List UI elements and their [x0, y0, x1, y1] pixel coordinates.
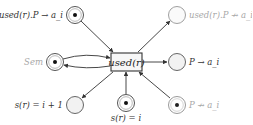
place-s-next: s(r) = i + 1 [15, 97, 84, 114]
place-label: Sem [24, 57, 43, 67]
arc-transition-to-used-notto [138, 21, 170, 52]
place-label: used(r).P → a_i [0, 10, 63, 21]
token-icon [53, 60, 57, 64]
arc-used-to-transition [81, 21, 113, 52]
place-p-to: P → a_i [169, 54, 220, 71]
place-used-to: used(r).P → a_i [0, 7, 84, 24]
arc-sem-to-transition [63, 55, 110, 59]
token-icon [124, 101, 128, 105]
transition-used: used(r) [108, 53, 145, 71]
arc-transition-to-s-next [82, 72, 113, 98]
token-icon [175, 103, 179, 107]
place-label: used(r).P ↛ a_i [189, 10, 252, 21]
place-label: P → a_i [188, 57, 220, 68]
place-label: P ↛ a_i [188, 100, 220, 111]
transition-label: used(r) [108, 57, 145, 68]
place-label: s(r) = i + 1 [15, 100, 63, 110]
place-sem: Sem [24, 54, 63, 71]
token-icon [73, 13, 77, 17]
place-s-cur: s(r) = i [111, 95, 142, 124]
arc-transition-to-sem [64, 65, 110, 68]
place-label: s(r) = i [111, 113, 142, 123]
place-p-notto: P ↛ a_i [169, 97, 220, 114]
arc-notto-to-transition [139, 72, 170, 98]
petri-net-diagram: used(r) used(r).P → a_i used(r).P ↛ a_i … [0, 0, 252, 125]
place-used-notto: used(r).P ↛ a_i [169, 7, 253, 24]
